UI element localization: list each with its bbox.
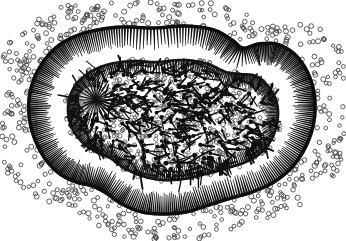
cross-section-illustration — [0, 0, 346, 241]
figure-container: Cross-section of a ciliated spherical or… — [0, 0, 346, 241]
